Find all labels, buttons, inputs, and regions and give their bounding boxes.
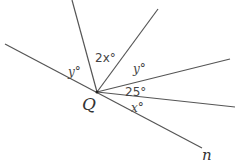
angle-label-x: x°	[131, 102, 144, 114]
angle-label-2x: 2x°	[95, 52, 116, 64]
angle-label-25: 25°	[125, 86, 146, 98]
angle-label-left-y: y°	[68, 66, 81, 78]
vertex-label: Q	[82, 96, 96, 113]
line-label-n: n	[202, 147, 212, 162]
ray-right-lower	[97, 92, 235, 107]
angle-diagram	[0, 0, 238, 162]
angle-label-upper-y: y°	[133, 63, 146, 75]
